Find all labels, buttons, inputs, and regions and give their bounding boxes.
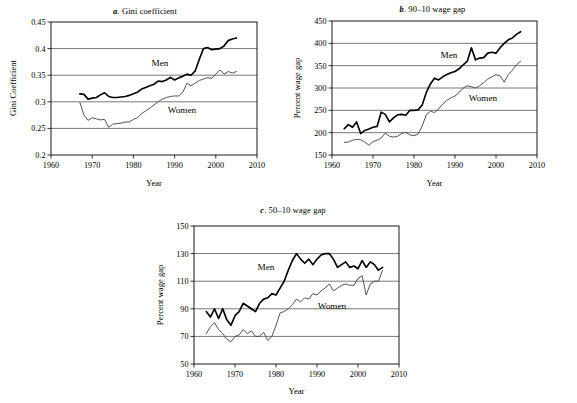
x-axis-tick-label: 1960 [186, 370, 202, 379]
y-axis-tick-label: 0.25 [31, 124, 45, 133]
series-annotation-women: Women [168, 105, 197, 115]
y-axis-tick-label: 450 [314, 17, 326, 26]
y-axis-tick-label: 300 [314, 84, 326, 93]
y-axis-tick-label: 0.3 [35, 98, 45, 107]
y-axis-tick-label: 0.4 [35, 45, 45, 54]
series-annotation-women: Women [318, 301, 347, 311]
y-axis-tick-label: 90 [180, 305, 188, 314]
y-axis-tick-label: 70 [180, 332, 188, 341]
series-annotation-men: Men [441, 50, 458, 60]
panel-a-title: a. Gini coefficient [0, 6, 290, 16]
x-axis-title: Year [427, 178, 443, 188]
x-axis-tick-label: 1980 [125, 161, 141, 170]
x-axis-tick-label: 1960 [43, 161, 59, 170]
panel_c-group: 507090110130150196019701980199020002010Y… [155, 222, 407, 396]
y-axis-tick-label: 250 [314, 106, 326, 115]
x-axis-title: Year [289, 386, 305, 396]
panel-c-50-10-wage-gap: c. 50–10 wage gap 5070901101301501960197… [143, 198, 443, 403]
panel-b-title-text: 90–10 wage gap [408, 4, 465, 14]
y-axis-tick-label: 200 [314, 129, 326, 138]
panel-a-gini-coefficient: a. Gini coefficient 0.20.250.30.350.40.4… [0, 0, 290, 200]
panel-a-plot: 0.20.250.30.350.40.451960197019801990200… [0, 0, 290, 200]
x-axis-tick-label: 2000 [350, 370, 366, 379]
series-line-women [80, 70, 237, 127]
panel-c-title-text: 50–10 wage gap [269, 205, 326, 215]
y-axis-tick-label: 0.2 [35, 151, 45, 160]
x-axis-tick-label: 1990 [447, 161, 463, 170]
x-axis-tick-label: 1980 [268, 370, 284, 379]
y-axis-tick-label: 400 [314, 39, 326, 48]
x-axis-tick-label: 1970 [84, 161, 100, 170]
y-axis-tick-label: 0.35 [31, 71, 45, 80]
y-axis-tick-label: 130 [176, 250, 188, 259]
x-axis-tick-label: 1980 [406, 161, 422, 170]
y-axis-tick-label: 150 [176, 222, 188, 231]
x-axis-tick-label: 1970 [365, 161, 381, 170]
panel-c-title: c. 50–10 wage gap [143, 205, 443, 215]
y-axis-tick-label: 350 [314, 62, 326, 71]
series-line-men [206, 254, 382, 326]
series-annotation-women: Women [469, 93, 498, 103]
panel-b-90-10-wage-gap: b. 90–10 wage gap 1502002503003504004501… [288, 0, 577, 200]
series-line-men [344, 32, 520, 134]
x-axis-tick-label: 1990 [309, 370, 325, 379]
series-annotation-men: Men [258, 262, 275, 272]
y-axis-tick-label: 150 [314, 151, 326, 160]
panel-b-plot: 1502002503003504004501960197019801990200… [288, 0, 577, 200]
y-axis-title: Percent wage gap [155, 265, 165, 326]
y-axis-tick-label: 110 [177, 277, 189, 286]
y-axis-title: Gini Coefficient [8, 59, 18, 116]
x-axis-tick-label: 1960 [324, 161, 340, 170]
y-axis-tick-label: 0.45 [31, 18, 45, 27]
panel_b-group: 1502002503003504004501960197019801990200… [292, 17, 545, 188]
panel-b-title: b. 90–10 wage gap [288, 4, 577, 14]
series-annotation-men: Men [152, 58, 169, 68]
x-axis-tick-label: 2010 [529, 161, 545, 170]
x-axis-tick-label: 1990 [166, 161, 182, 170]
panel_a-group: 0.20.250.30.350.40.451960197019801990200… [8, 18, 265, 188]
x-axis-tick-label: 1970 [227, 370, 243, 379]
x-axis-tick-label: 2000 [208, 161, 224, 170]
plot-frame [194, 226, 399, 364]
y-axis-tick-label: 50 [180, 360, 188, 369]
panel-a-title-text: Gini coefficient [122, 6, 177, 16]
x-axis-title: Year [146, 178, 162, 188]
x-axis-tick-label: 2010 [249, 161, 265, 170]
x-axis-tick-label: 2010 [391, 370, 407, 379]
x-axis-tick-label: 2000 [488, 161, 504, 170]
y-axis-title: Percent wage gap [292, 58, 302, 119]
series-line-men [80, 38, 237, 99]
panel-c-plot: 507090110130150196019701980199020002010Y… [143, 198, 443, 403]
